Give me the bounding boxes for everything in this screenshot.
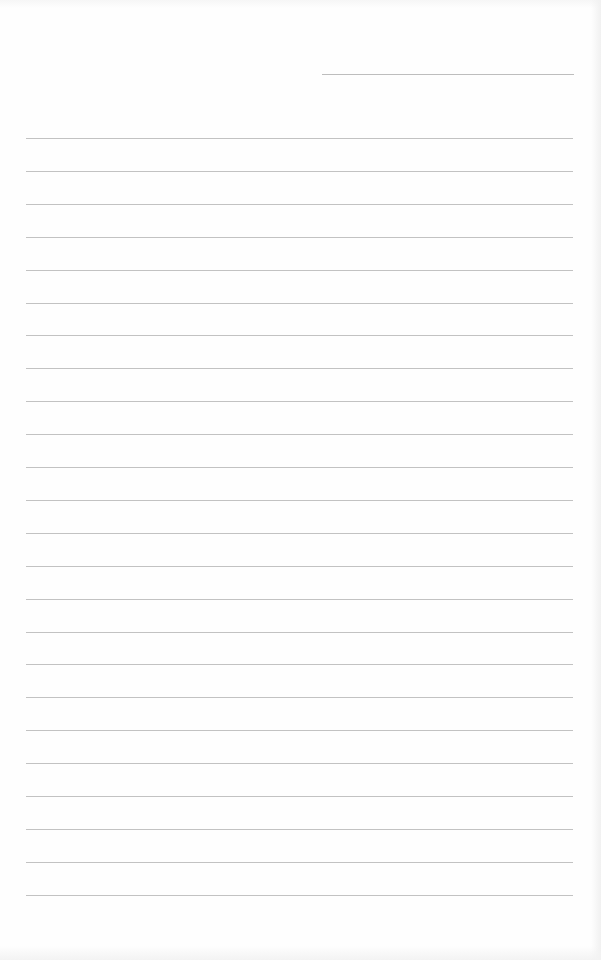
page-top-shadow: [0, 0, 601, 8]
ruled-line: [26, 401, 573, 402]
ruled-line: [26, 467, 573, 468]
ruled-line: [26, 862, 573, 863]
ruled-line: [26, 829, 573, 830]
ruled-line: [26, 895, 573, 896]
ruled-line: [26, 599, 573, 600]
ruled-line: [26, 763, 573, 764]
ruled-line: [26, 566, 573, 567]
ruled-line: [26, 434, 573, 435]
ruled-line: [26, 697, 573, 698]
header-name-line: [322, 74, 574, 75]
ruled-line: [26, 270, 573, 271]
ruled-line: [26, 335, 573, 336]
ruled-line: [26, 237, 573, 238]
ruled-line: [26, 204, 573, 205]
ruled-line: [26, 171, 573, 172]
ruled-line: [26, 138, 573, 139]
page-right-shadow: [591, 0, 601, 960]
ruled-line: [26, 533, 573, 534]
ruled-line: [26, 796, 573, 797]
page-bottom-shadow: [0, 946, 601, 960]
ruled-line: [26, 500, 573, 501]
ruled-line: [26, 303, 573, 304]
ruled-line: [26, 368, 573, 369]
ruled-line: [26, 664, 573, 665]
ruled-line: [26, 632, 573, 633]
ruled-line: [26, 730, 573, 731]
